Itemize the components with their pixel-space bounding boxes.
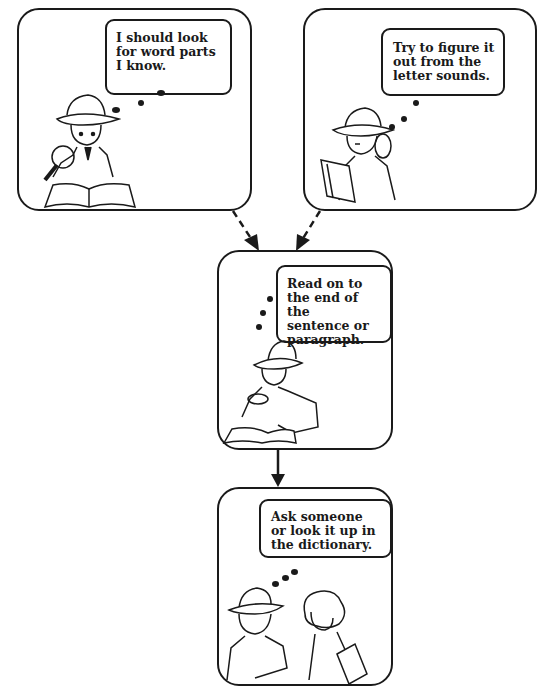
- detective-examining-illustration: [222, 337, 332, 447]
- detective-and-girl-illustration: [225, 584, 385, 684]
- frame-letter-sounds: Try to figure it out from the letter sou…: [303, 8, 537, 211]
- bubble-word-parts: I should look for word parts I know.: [105, 19, 232, 95]
- thought-dot: [413, 100, 419, 106]
- detective-reading-illustration: [33, 85, 143, 210]
- thought-dot: [267, 296, 273, 302]
- thought-dot: [291, 569, 298, 575]
- dashed-arrow-left: [233, 211, 252, 240]
- arrowhead-down: [271, 474, 285, 487]
- detective-thinking-illustration: [315, 100, 410, 205]
- bubble-letter-sounds: Try to figure it out from the letter sou…: [381, 28, 505, 96]
- thought-dot: [256, 324, 262, 330]
- bubble-read-on: Read on to the end of the sentence or pa…: [276, 265, 392, 343]
- frame-ask-someone: Ask someone or look it up in the diction…: [217, 487, 393, 686]
- thought-dot: [260, 310, 266, 316]
- frame-read-on: Read on to the end of the sentence or pa…: [217, 250, 393, 450]
- arrowhead-left: [244, 234, 259, 251]
- thought-dot: [157, 90, 165, 96]
- frame-word-parts: I should look for word parts I know.: [17, 8, 252, 211]
- thought-dot: [282, 575, 289, 581]
- bubble-ask-someone: Ask someone or look it up in the diction…: [259, 499, 392, 558]
- dashed-arrow-right: [302, 211, 320, 240]
